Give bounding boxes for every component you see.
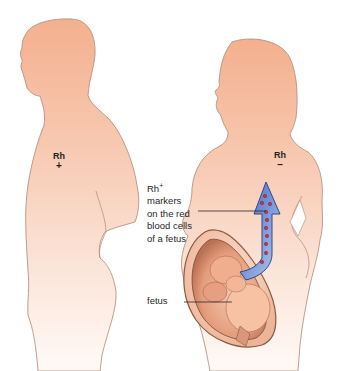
callout-line-1: markers [147, 195, 192, 207]
rh-factor-diagram: Rh + Rh – Rh+ markers on the red blood c… [0, 0, 357, 371]
rh-markers-callout: Rh+ markers on the red blood cells of a … [147, 183, 192, 245]
male-rh-sign: + [44, 161, 74, 170]
callout-line-4: of a fetus [147, 233, 192, 245]
callout-heading: Rh+ [147, 183, 192, 195]
callout-rh-text: Rh [147, 183, 159, 194]
male-silhouette [21, 19, 139, 371]
male-rh-label: Rh + [44, 151, 74, 170]
female-rh-sign: – [265, 160, 295, 169]
callout-rh-sup: + [159, 182, 163, 189]
callout-line-3: blood cells [147, 220, 192, 232]
female-rh-label: Rh – [265, 150, 295, 169]
fetus-callout: fetus [147, 295, 168, 307]
callout-line-2: on the red [147, 208, 192, 220]
